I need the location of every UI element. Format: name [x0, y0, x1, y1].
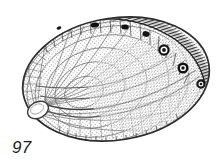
- pore-5: [159, 45, 168, 54]
- pore-6: [179, 64, 188, 73]
- figure-number-label: 97: [12, 138, 32, 158]
- pore-7: [197, 80, 204, 87]
- abalone-shell-illustration: [0, 0, 221, 166]
- figure-plate: 97: [0, 0, 221, 166]
